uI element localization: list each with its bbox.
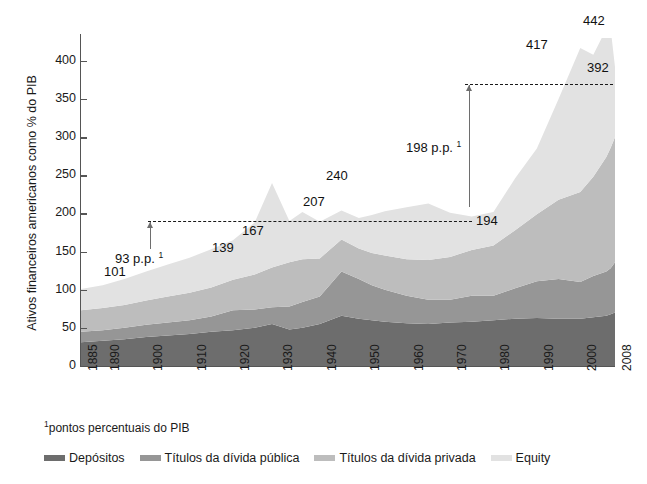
legend-label: Títulos da dívida privada: [339, 451, 475, 465]
y-tick: [81, 137, 87, 138]
y-tick-label-250: 250: [6, 167, 76, 181]
value-194: 194: [476, 213, 498, 228]
y-tick: [81, 213, 87, 214]
value-392: 392: [587, 60, 609, 75]
y-tick: [81, 61, 87, 62]
value-417: 417: [526, 37, 548, 52]
x-tick-label-1930: 1930: [281, 344, 295, 371]
x-tick-label-1980: 1980: [498, 344, 512, 371]
y-tick-label-50: 50: [6, 320, 76, 334]
y-tick: [81, 366, 87, 367]
legend-label: Títulos da dívida pública: [165, 451, 300, 465]
legend-label: Depósitos: [69, 451, 125, 465]
reference-line-392: [465, 84, 613, 85]
x-tick-label-1885: 1885: [86, 344, 100, 371]
legend-item-0[interactable]: Depósitos: [44, 451, 125, 465]
y-tick-label-400: 400: [6, 53, 76, 67]
area-series-group: [81, 38, 615, 366]
value-240: 240: [326, 168, 348, 183]
y-tick: [81, 328, 87, 329]
legend-swatch-icon: [314, 455, 335, 461]
value-139: 139: [212, 240, 234, 255]
value-442: 442: [583, 13, 605, 28]
y-tick-label-150: 150: [6, 244, 76, 258]
y-tick-label-200: 200: [6, 205, 76, 219]
legend-swatch-icon: [140, 455, 161, 461]
plot-area: [81, 38, 615, 366]
legend-item-1[interactable]: Títulos da dívida pública: [140, 451, 300, 465]
y-tick: [81, 99, 87, 100]
y-tick: [81, 175, 87, 176]
x-tick-label-1970: 1970: [455, 344, 469, 371]
x-tick-label-1940: 1940: [325, 344, 339, 371]
x-tick-label-1950: 1950: [368, 344, 382, 371]
x-tick-label-1990: 1990: [542, 344, 556, 371]
legend-swatch-icon: [44, 455, 65, 461]
legend-item-2[interactable]: Títulos da dívida privada: [314, 451, 475, 465]
y-tick-label-300: 300: [6, 129, 76, 143]
legend: DepósitosTítulos da dívida públicaTítulo…: [44, 451, 565, 465]
x-tick-label-1920: 1920: [238, 344, 252, 371]
delta-93: 93 p.p. 1: [115, 250, 163, 266]
legend-label: Equity: [516, 451, 551, 465]
y-tick: [81, 252, 87, 253]
footnote: 1pontos percentuais do PIB: [44, 419, 190, 435]
legend-swatch-icon: [491, 455, 512, 461]
x-tick-label-1900: 1900: [151, 344, 165, 371]
x-tick-label-1910: 1910: [195, 344, 209, 371]
delta-arrow-198: [469, 85, 470, 207]
x-tick-label-2000: 2000: [585, 344, 599, 371]
x-tick-label-2008: 2008: [620, 344, 634, 371]
y-tick: [81, 290, 87, 291]
value-167: 167: [242, 223, 264, 238]
value-207: 207: [303, 194, 325, 209]
x-tick-label-1890: 1890: [108, 344, 122, 371]
reference-line-194: [148, 221, 472, 222]
stacked-area-svg: [81, 38, 615, 366]
y-axis-tick-labels: 050100150200250300350400: [0, 0, 76, 484]
y-tick-label-350: 350: [6, 91, 76, 105]
footnote-text: pontos percentuais do PIB: [49, 421, 190, 435]
legend-item-3[interactable]: Equity: [491, 451, 551, 465]
y-tick-label-0: 0: [6, 358, 76, 372]
delta-arrow-93: [150, 222, 151, 249]
x-tick-label-1960: 1960: [412, 344, 426, 371]
delta-198: 198 p.p. 1: [406, 139, 461, 155]
y-tick-label-100: 100: [6, 282, 76, 296]
chart-title: O crescimento dos ativos financeiros nor…: [24, 0, 454, 3]
chart-root: O crescimento dos ativos financeiros nor…: [0, 0, 647, 484]
